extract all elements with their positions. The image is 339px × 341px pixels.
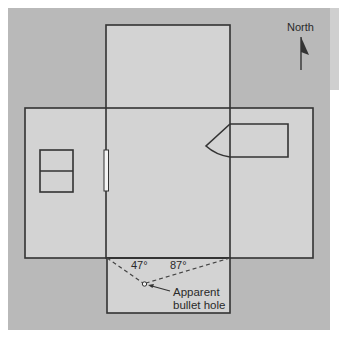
compass-label: North xyxy=(287,21,314,33)
angle-label-87: 87° xyxy=(170,259,187,271)
annotation-line2: bullet hole xyxy=(173,299,225,311)
angle-label-47: 47° xyxy=(131,259,148,271)
north-arrow-icon xyxy=(301,37,309,70)
window xyxy=(104,150,109,191)
floor-plan: 47° 87° Apparent bullet hole North xyxy=(0,0,339,341)
bullet-hole-icon xyxy=(142,282,146,286)
wing-fill xyxy=(25,108,313,258)
annotation-line1: Apparent xyxy=(173,286,220,298)
